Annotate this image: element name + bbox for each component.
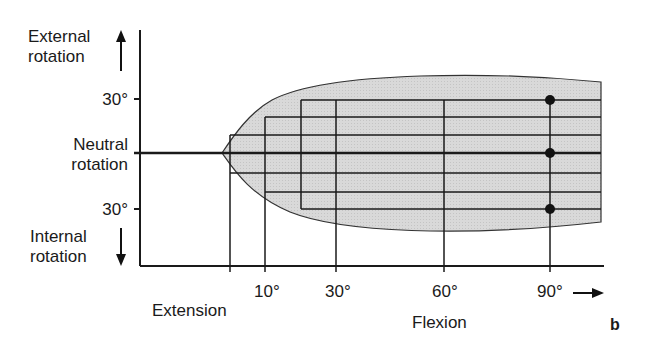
internal-rotation-label: Internal rotation	[30, 227, 87, 267]
x-tick-60: 60°	[432, 282, 458, 302]
x-tick-30: 30°	[325, 282, 351, 302]
figure-label: b	[610, 315, 620, 335]
flexion-label: Flexion	[412, 313, 467, 333]
y-tick-external-30: 30°	[96, 90, 128, 110]
x-tick-10: 10°	[254, 282, 280, 302]
internal-rotation-arrow-icon	[116, 228, 126, 266]
flexion-arrow-icon	[573, 288, 604, 298]
external-rotation-label: External rotation	[28, 27, 90, 67]
neutral-rotation-label: Neutral rotation	[40, 135, 128, 175]
external-rotation-arrow-icon	[116, 30, 126, 71]
extension-label: Extension	[152, 301, 227, 321]
y-tick-internal-30: 30°	[96, 200, 128, 220]
x-tick-90: 90°	[537, 282, 563, 302]
